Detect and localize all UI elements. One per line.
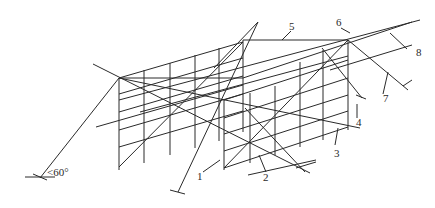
label-1: 1 — [197, 170, 203, 182]
label-3: 3 — [334, 147, 340, 159]
label-4: 4 — [356, 116, 362, 128]
right-frame — [119, 20, 420, 170]
angle-annotation: <60° — [47, 166, 69, 178]
label-7: 7 — [383, 92, 389, 104]
diagram-drawing: 1 2 3 4 5 6 7 8 <60° — [0, 0, 435, 208]
label-5: 5 — [289, 20, 295, 32]
scaffold-diagram: 1 2 3 4 5 6 7 8 <60° — [0, 0, 435, 208]
leader-lines — [203, 28, 407, 172]
labels: 1 2 3 4 5 6 7 8 <60° — [47, 16, 422, 183]
label-8: 8 — [416, 46, 422, 58]
label-6: 6 — [336, 16, 342, 28]
label-2: 2 — [263, 171, 269, 183]
